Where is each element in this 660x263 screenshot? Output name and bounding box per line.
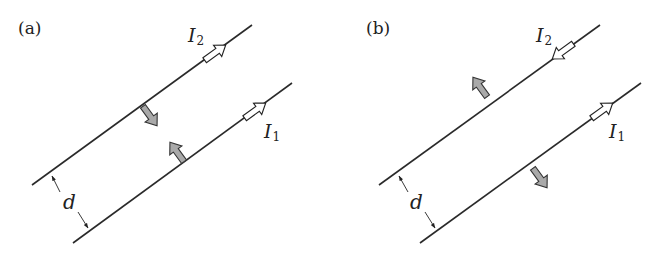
separation-arrow-lower (78, 212, 88, 228)
separation-arrow-lower (425, 212, 435, 228)
current-label-i2: I2 (187, 24, 204, 48)
current-label-i1: I1 (263, 120, 280, 144)
panel-a: (a) I2 I1 d (18, 18, 292, 243)
separation-label: d (410, 190, 423, 214)
separation-label: d (63, 190, 76, 214)
panel-b: (b) I2 I1 d (366, 18, 641, 243)
force-arrow-icon (467, 73, 493, 101)
panel-b-label: (b) (366, 18, 390, 38)
current-label-i2: I2 (535, 24, 552, 48)
force-arrow-icon (164, 138, 190, 166)
panel-a-label: (a) (18, 18, 41, 38)
current-label-i1: I1 (608, 120, 625, 144)
force-arrow-icon (527, 164, 553, 192)
separation-arrow-upper (399, 176, 408, 192)
separation-arrow-upper (52, 176, 60, 192)
current-arrow-icon (201, 39, 230, 66)
parallel-wires-diagram: (a) I2 I1 d (b) (0, 0, 660, 263)
current-arrow-icon (548, 38, 577, 65)
